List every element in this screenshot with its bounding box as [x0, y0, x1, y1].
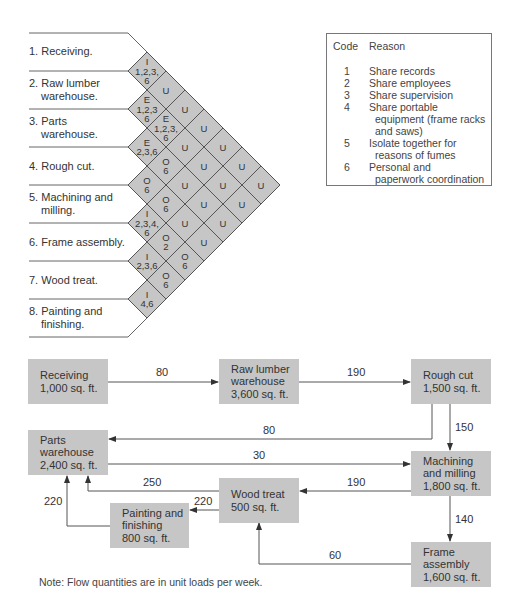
svg-text:U: U	[201, 161, 208, 172]
box-frame-assembly: Frame assembly 1,600 sq. ft.	[411, 542, 491, 587]
box-painting-and-finishing: Painting and finishing 800 sq. ft.	[110, 503, 189, 548]
svg-text:6: 6	[144, 227, 149, 238]
svg-text:6: 6	[163, 165, 168, 176]
flow-label-frame-wood: 60	[329, 549, 341, 561]
svg-text:6: 6	[182, 260, 187, 271]
svg-text:4,6: 4,6	[140, 298, 153, 309]
dept-label-1: 1. Receiving.	[29, 45, 93, 58]
flow-label-parts-machining: 30	[253, 449, 265, 461]
svg-text:U: U	[258, 180, 265, 191]
box-rough-cut: Rough cut 1,500 sq. ft.	[411, 359, 491, 404]
svg-text:6: 6	[163, 132, 168, 143]
flow-label-painting-parts: 220	[44, 495, 62, 507]
legend-row: 3 Share supervision	[333, 89, 487, 101]
flow-label-receiving-raw: 80	[156, 366, 168, 378]
flow-label-rough-parts: 80	[263, 424, 275, 436]
svg-text:U: U	[163, 85, 170, 96]
flow-label-wood-parts: 250	[143, 476, 161, 488]
svg-text:U: U	[220, 218, 227, 229]
svg-text:2: 2	[163, 241, 168, 252]
svg-text:6: 6	[163, 279, 168, 290]
box-parts-warehouse: Parts warehouse 2,400 sq. ft.	[28, 430, 108, 475]
legend-row: 6 Personal andpaperwork coordination	[333, 161, 487, 185]
legend-code-header: Code	[333, 40, 369, 52]
svg-text:6: 6	[144, 75, 149, 86]
svg-text:2,3,6: 2,3,6	[136, 146, 157, 157]
dept-label-4: 4. Rough cut.	[29, 160, 94, 173]
dept-label-7: 7. Wood treat.	[29, 274, 98, 287]
svg-text:U: U	[182, 180, 189, 191]
dept-label-2: 2. Raw lumber warehouse.	[29, 77, 100, 103]
flow-label-rough-machining: 150	[455, 421, 473, 433]
svg-text:U: U	[182, 218, 189, 229]
svg-text:6: 6	[144, 113, 149, 124]
flow-label-wood-painting: 220	[194, 495, 212, 507]
legend-header: CodeReason	[333, 40, 405, 52]
svg-text:U: U	[239, 199, 246, 210]
legend-row: 4 Share portableequipment (frame racks a…	[333, 101, 487, 137]
svg-text:U: U	[182, 142, 189, 153]
legend-row: 2 Share employees	[333, 77, 487, 89]
box-receiving: Receiving 1,000 sq. ft.	[28, 359, 108, 404]
svg-text:6: 6	[144, 184, 149, 195]
relationship-cells: I1,2,3,6UUUUUUE1,2,36E1,2,3,6UUUUE2,3,6O…	[128, 52, 280, 318]
legend-row: 1 Share records	[333, 65, 487, 77]
legend-row: 5 Isolate together forreasons of fumes	[333, 137, 487, 161]
svg-text:U: U	[201, 199, 208, 210]
flow-label-machining-frame: 140	[455, 513, 473, 525]
svg-text:U: U	[201, 123, 208, 134]
dept-label-3: 3. Parts warehouse.	[29, 115, 98, 141]
dept-label-6: 6. Frame assembly.	[29, 236, 125, 249]
box-machining-and-milling: Machining and milling 1,800 sq. ft.	[411, 451, 491, 496]
svg-text:U: U	[182, 104, 189, 115]
svg-text:U: U	[201, 237, 208, 248]
svg-text:2,3,6: 2,3,6	[136, 260, 157, 271]
reason-code-legend: CodeReason 1 Share records 2 Share emplo…	[326, 33, 492, 186]
dept-label-5: 5. Machining and milling.	[29, 191, 113, 217]
svg-text:6: 6	[163, 203, 168, 214]
legend-reason-header: Reason	[369, 40, 405, 52]
flow-label-raw-rough: 190	[347, 366, 365, 378]
flow-note: Note: Flow quantities are in unit loads …	[39, 576, 263, 588]
flow-label-machining-wood: 190	[347, 476, 365, 488]
svg-text:U: U	[239, 161, 246, 172]
dept-label-8: 8. Painting and finishing.	[29, 305, 102, 331]
svg-text:U: U	[220, 142, 227, 153]
svg-text:U: U	[220, 180, 227, 191]
box-wood-treat: Wood treat 500 sq. ft.	[219, 478, 299, 523]
box-raw-lumber-warehouse: Raw lumber warehouse 3,600 sq. ft.	[219, 359, 299, 404]
